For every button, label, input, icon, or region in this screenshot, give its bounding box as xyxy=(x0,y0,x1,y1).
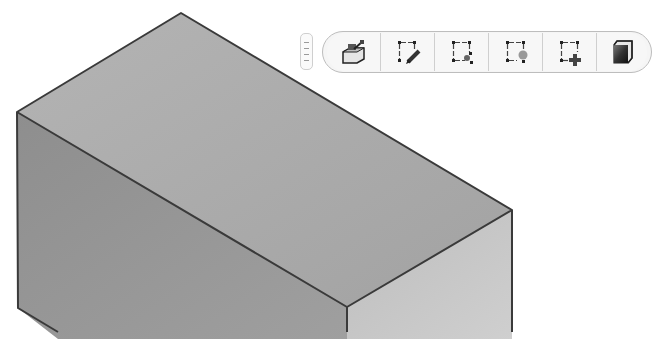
grip-handle-icon[interactable] xyxy=(300,33,313,70)
sketch-edit-button[interactable] xyxy=(381,33,435,71)
sketch-pencil-icon xyxy=(394,38,422,66)
extrude-sketch-icon xyxy=(340,38,368,66)
sketch-node-icon xyxy=(448,38,476,66)
sketch-add-button[interactable] xyxy=(543,33,597,71)
sketch-add-icon xyxy=(556,38,584,66)
shaded-view-button[interactable] xyxy=(597,33,647,71)
shaded-cube-icon xyxy=(608,38,636,66)
sketch-circle-button[interactable] xyxy=(489,33,543,71)
context-toolbar xyxy=(322,31,652,73)
sketch-point-button[interactable] xyxy=(435,33,489,71)
extrude-button[interactable] xyxy=(327,33,381,71)
sketch-circle-icon xyxy=(502,38,530,66)
